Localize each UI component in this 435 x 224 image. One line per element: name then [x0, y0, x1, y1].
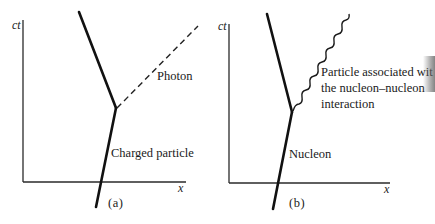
panel-a-ct-axis-label: ct	[12, 17, 21, 33]
panel-a-charged-particle-label: Charged particle	[111, 145, 194, 161]
panel-a-x-axis-label: x	[178, 180, 183, 196]
page-edge-shadow	[423, 56, 435, 92]
panel-b-exchange-label-line-2: the nucleon–nucleon	[321, 80, 425, 96]
panel-a-caption: (a)	[108, 195, 123, 211]
panel-b-nucleon-label: Nucleon	[289, 146, 331, 162]
panel-a-photon-worldline	[117, 26, 198, 108]
panel-b-nucleon-worldline-upper	[267, 14, 292, 112]
spacetime-diagram-figure: ct x Photon Charged particle (a) ct x Pa…	[0, 0, 435, 224]
panel-a-charged-particle-worldline-upper	[79, 12, 116, 108]
panel-b-x-axis-label: x	[384, 181, 389, 197]
panel-b-caption: (b)	[289, 195, 305, 211]
panel-b-exchange-label-line-1: Particle associated wit	[321, 64, 433, 80]
panel-b-exchange-label-line-3: interaction	[321, 96, 374, 112]
panel-b-ct-axis-label: ct	[218, 18, 227, 34]
panel-a	[23, 12, 198, 207]
panel-a-photon-label: Photon	[157, 68, 192, 84]
